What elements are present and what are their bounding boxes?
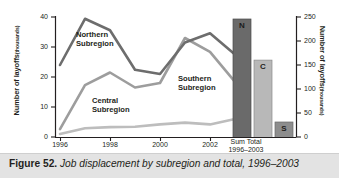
right-tick-150: 150 bbox=[304, 61, 324, 68]
series-line-central bbox=[60, 119, 235, 134]
left-tick-10: 10 bbox=[32, 103, 48, 110]
series-label-northern-line2: Subregion bbox=[76, 39, 114, 48]
series-label-southern-line2: Subregion bbox=[178, 83, 216, 92]
left-tick-40: 40 bbox=[32, 13, 48, 20]
x-tick-2000: 2000 bbox=[145, 141, 175, 148]
x-tick-1998: 1998 bbox=[95, 141, 125, 148]
figure-caption: Figure 52. Job displacement by subregion… bbox=[9, 158, 299, 169]
right-tick-250: 250 bbox=[304, 13, 324, 20]
series-label-southern-line1: Southern bbox=[178, 74, 211, 83]
series-label-northern: Northern Subregion bbox=[76, 30, 114, 48]
right-axis bbox=[297, 16, 302, 138]
right-tick-100: 100 bbox=[304, 85, 324, 92]
bar-label-south: S bbox=[275, 124, 293, 133]
right-tick-0: 0 bbox=[304, 133, 324, 140]
x-tick-1996: 1996 bbox=[45, 141, 75, 148]
left-tick-0: 0 bbox=[32, 133, 48, 140]
bar-central bbox=[254, 60, 272, 137]
figure-container: Number of layoffs(thousands) Number of l… bbox=[0, 0, 339, 182]
series-label-central-line1: Central bbox=[92, 96, 118, 105]
right-tick-50: 50 bbox=[304, 109, 324, 116]
series-label-southern: Southern Subregion bbox=[178, 74, 216, 92]
bar-group-label-line1: Sum Total bbox=[231, 138, 262, 145]
bar-label-central: C bbox=[254, 62, 272, 71]
left-axis-title: Number of layoffs(thousands) bbox=[12, 21, 21, 121]
plot-area: Number of layoffs(thousands) Number of l… bbox=[0, 0, 339, 150]
bar-group bbox=[231, 19, 296, 138]
bar-north bbox=[233, 19, 251, 138]
caption-body: Job displacement by subregion and total,… bbox=[60, 158, 299, 169]
series-label-northern-line1: Northern bbox=[76, 30, 108, 39]
series-label-central-line2: Subregion bbox=[92, 105, 130, 114]
right-axis-title: Number of layoffs(thousands) bbox=[318, 21, 327, 121]
left-tick-30: 30 bbox=[32, 43, 48, 50]
right-axis-title-text: Number of layoffs bbox=[318, 26, 327, 87]
left-tick-20: 20 bbox=[32, 73, 48, 80]
left-axis-title-text: Number of layoffs bbox=[12, 54, 21, 115]
right-tick-200: 200 bbox=[304, 37, 324, 44]
left-axis bbox=[51, 16, 56, 138]
caption-number: Figure 52. bbox=[9, 158, 57, 169]
series-label-central: Central Subregion bbox=[92, 96, 130, 114]
left-axis-units: (thousands) bbox=[14, 26, 20, 55]
bar-label-north: N bbox=[233, 21, 251, 30]
